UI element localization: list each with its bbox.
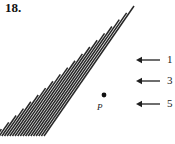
callout-arrow-group bbox=[136, 57, 160, 107]
point-p-marker bbox=[102, 93, 107, 98]
point-p-label: P bbox=[97, 103, 103, 112]
parallel-lines-diagram bbox=[0, 0, 175, 144]
hatch-line bbox=[33, 33, 104, 136]
callout-number-1: 1 bbox=[167, 54, 173, 65]
callout-number-5: 5 bbox=[167, 98, 173, 109]
hatch-line bbox=[39, 20, 120, 136]
hatch-line bbox=[41, 13, 126, 136]
callout-arrow-head bbox=[136, 57, 142, 63]
callout-number-3: 3 bbox=[167, 75, 173, 86]
callout-arrow-head bbox=[136, 101, 142, 107]
hatch-line bbox=[28, 47, 90, 136]
hatch-line-group bbox=[0, 6, 134, 136]
callout-arrow-head bbox=[136, 78, 142, 84]
geometry-figure: 18. P 1 3 5 bbox=[0, 0, 175, 144]
hatch-line bbox=[26, 54, 83, 136]
hatch-line bbox=[44, 6, 134, 136]
hatch-line bbox=[31, 40, 97, 136]
hatch-line bbox=[36, 27, 112, 136]
